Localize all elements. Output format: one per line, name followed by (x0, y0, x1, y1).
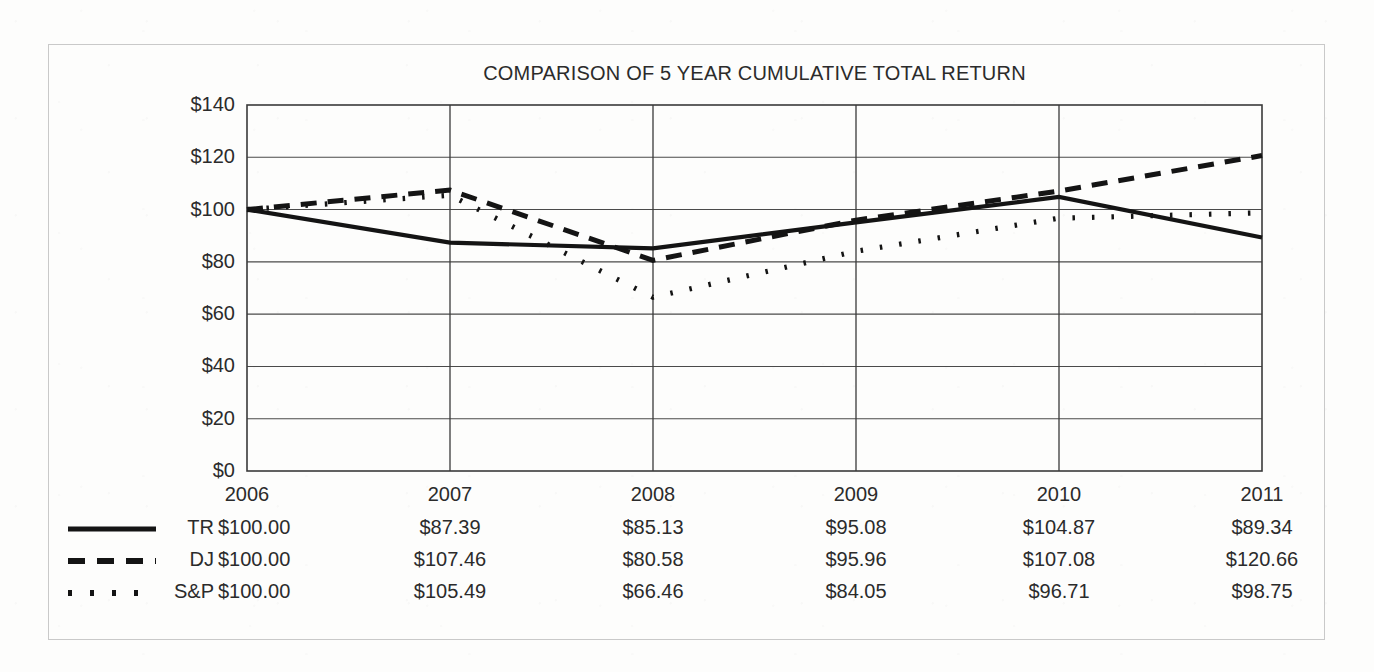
table-cell-value: $66.46 (553, 580, 753, 602)
x-axis-tick-label: 2007 (350, 484, 550, 504)
table-cell-value: $107.46 (350, 548, 550, 570)
legend-swatch-dashed (66, 554, 158, 568)
legend-series-label: S&P (162, 580, 214, 602)
y-axis-tick-label: $60 (157, 303, 235, 323)
table-row: DJ$100.00$107.46$80.58$95.96$107.08$120.… (66, 548, 1276, 580)
legend-swatch-solid (66, 522, 158, 536)
y-axis-tick-label: $120 (157, 146, 235, 166)
grid-lines (247, 105, 1262, 471)
table-cell-value: $80.58 (553, 548, 753, 570)
y-axis-tick-label: $80 (157, 251, 235, 271)
x-axis-tick-label: 2006 (147, 484, 347, 504)
x-axis-tick-label: 2009 (756, 484, 956, 504)
plot-frame (247, 105, 1262, 471)
table-cell-value: $105.49 (350, 580, 550, 602)
series-value-table: 200620072008200920102011 TR$100.00$87.39… (66, 516, 1276, 612)
y-axis-tick-label: $0 (157, 460, 235, 480)
legend-series-label: TR (162, 516, 214, 538)
x-axis-tick-label: 2008 (553, 484, 753, 504)
x-axis-tick-label: 2011 (1162, 484, 1362, 504)
series-line-sandp (247, 195, 1262, 297)
y-axis-tick-label: $40 (157, 355, 235, 375)
table-cell-value: $89.34 (1162, 516, 1362, 538)
table-cell-value: $107.08 (959, 548, 1159, 570)
table-cell-value: $85.13 (553, 516, 753, 538)
table-row: S&P$100.00$105.49$66.46$84.05$96.71$98.7… (66, 580, 1276, 612)
legend-swatch-dotted (66, 586, 158, 600)
table-cell-value: $104.87 (959, 516, 1159, 538)
table-cell-value: $96.71 (959, 580, 1159, 602)
table-cell-value: $95.96 (756, 548, 956, 570)
y-axis-tick-label: $140 (157, 94, 235, 114)
table-cell-value: $120.66 (1162, 548, 1362, 570)
table-cell-value: $87.39 (350, 516, 550, 538)
x-axis-tick-label: 2010 (959, 484, 1159, 504)
table-cell-value: $95.08 (756, 516, 956, 538)
chart-page: COMPARISON OF 5 YEAR CUMULATIVE TOTAL RE… (0, 0, 1374, 672)
table-row: TR$100.00$87.39$85.13$95.08$104.87$89.34 (66, 516, 1276, 548)
table-cell-value: $84.05 (756, 580, 956, 602)
y-axis-tick-label: $100 (157, 199, 235, 219)
table-cell-value: $98.75 (1162, 580, 1362, 602)
data-series-group (247, 156, 1262, 298)
y-axis-tick-label: $20 (157, 408, 235, 428)
legend-series-label: DJ (162, 548, 214, 570)
